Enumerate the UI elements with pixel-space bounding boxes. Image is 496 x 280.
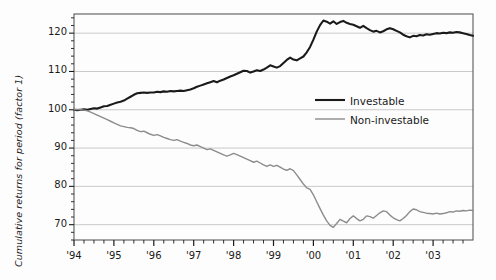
chart-figure: Cumulative returns for period (factor 1)… bbox=[0, 0, 496, 280]
x-tick-label: '97 bbox=[179, 250, 209, 261]
series-line-non-investable bbox=[74, 109, 473, 227]
legend-label-non-investable: Non-investable bbox=[350, 114, 429, 126]
y-tick-label: 80 bbox=[39, 179, 67, 190]
legend-label-investable: Investable bbox=[350, 95, 405, 107]
y-tick-label: 90 bbox=[39, 141, 67, 152]
x-tick-label: '00 bbox=[298, 250, 328, 261]
y-tick-label: 110 bbox=[39, 64, 67, 75]
x-tick-label: '01 bbox=[338, 250, 368, 261]
series-line-investable bbox=[74, 21, 473, 111]
x-tick-label: '98 bbox=[219, 250, 249, 261]
x-tick-label: '96 bbox=[139, 250, 169, 261]
axis-ticks-group bbox=[69, 18, 463, 246]
x-tick-label: '94 bbox=[59, 250, 89, 261]
x-tick-label: '02 bbox=[378, 250, 408, 261]
x-tick-label: '99 bbox=[259, 250, 289, 261]
plot-frame bbox=[74, 14, 473, 240]
y-tick-label: 120 bbox=[39, 26, 67, 37]
plot-area bbox=[0, 0, 496, 280]
x-tick-label: '95 bbox=[99, 250, 129, 261]
y-tick-label: 70 bbox=[39, 218, 67, 229]
x-tick-label: '03 bbox=[418, 250, 448, 261]
y-tick-label: 100 bbox=[39, 103, 67, 114]
